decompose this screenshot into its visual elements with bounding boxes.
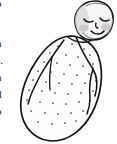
swaddled-baby-svg [0,0,117,144]
left-cheek-blush [79,24,89,31]
right-cheek-blush [101,23,111,30]
swaddled-baby-illustration [0,0,117,144]
swaddle-body-group [21,36,102,141]
head-group [71,1,116,40]
illustration-page: o f h s. n d p [0,0,117,144]
